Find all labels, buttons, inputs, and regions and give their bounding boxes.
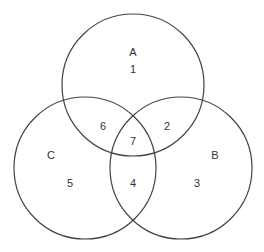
set-label-b: B bbox=[211, 149, 218, 161]
region-label-5: 5 bbox=[67, 177, 73, 189]
region-label-1: 1 bbox=[130, 63, 136, 75]
set-label-a: A bbox=[129, 46, 137, 58]
region-label-6: 6 bbox=[100, 120, 106, 132]
circle-b bbox=[110, 97, 252, 239]
region-label-2: 2 bbox=[164, 120, 170, 132]
region-label-7: 7 bbox=[130, 135, 136, 147]
region-label-3: 3 bbox=[194, 177, 200, 189]
set-label-c: C bbox=[47, 149, 55, 161]
circle-c bbox=[14, 97, 156, 239]
venn-diagram: A B C 1 2 3 4 5 6 7 bbox=[0, 0, 264, 252]
region-label-4: 4 bbox=[130, 177, 136, 189]
